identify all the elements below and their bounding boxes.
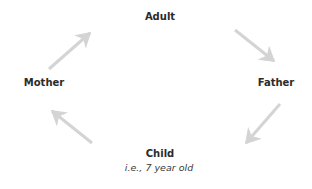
node-adult: Adult [145,11,175,23]
arrow-child-to-mother [52,111,92,143]
arrow-father-to-child [246,104,280,143]
node-child-sublabel: i.e., 7 year old [125,162,193,174]
arrow-adult-to-father [235,30,274,61]
cycle-arrows [0,0,312,189]
node-mother: Mother [24,77,64,89]
node-child: Child [146,148,174,160]
arrow-mother-to-adult [49,33,90,69]
node-father: Father [258,77,295,89]
